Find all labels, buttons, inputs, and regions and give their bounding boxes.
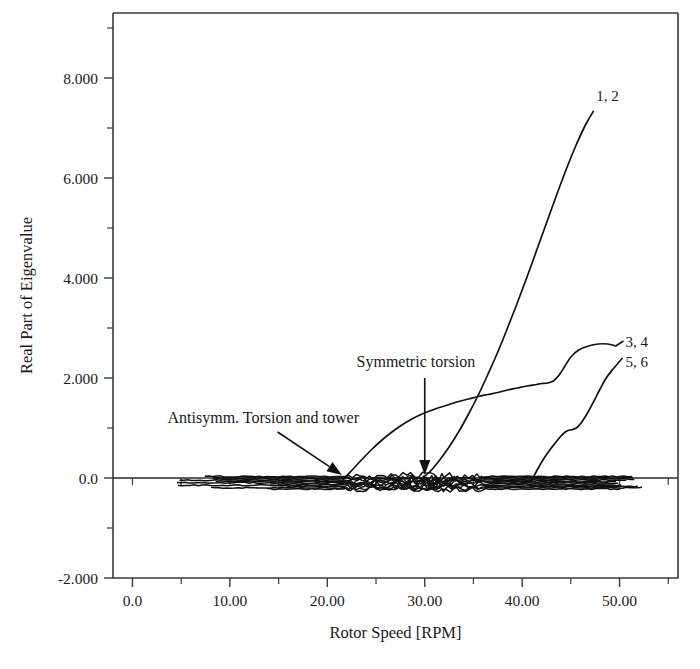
x-tick-label: 0.0	[123, 592, 143, 609]
y-tick-label: -2.000	[58, 570, 98, 587]
x-tick-label: 10.00	[212, 592, 247, 609]
eigenvalue-chart: -2.0000.02.0004.0006.0008.0000.010.0020.…	[0, 0, 700, 669]
x-tick-label: 40.00	[505, 592, 540, 609]
chart-background	[0, 0, 700, 669]
y-tick-label: 6.000	[63, 170, 98, 187]
y-tick-label: 2.000	[63, 370, 98, 387]
y-tick-label: 0.0	[79, 470, 99, 487]
annotation-label-1: Symmetric torsion	[357, 353, 476, 371]
curve-label-5-6: 5, 6	[625, 354, 648, 370]
figure-container: -2.0000.02.0004.0006.0008.0000.010.0020.…	[0, 0, 700, 669]
y-tick-label: 8.000	[63, 70, 98, 87]
x-tick-label: 30.00	[407, 592, 442, 609]
y-axis-title: Real Part of Eigenvalue	[17, 217, 36, 374]
curve-label-1-2: 1, 2	[596, 88, 619, 104]
x-axis-title: Rotor Speed [RPM]	[330, 623, 462, 642]
curve-label-3-4: 3, 4	[625, 334, 648, 350]
x-tick-label: 50.00	[602, 592, 637, 609]
y-tick-label: 4.000	[63, 270, 98, 287]
annotation-label-0: Antisymm. Torsion and tower	[168, 409, 360, 427]
x-tick-label: 20.00	[310, 592, 345, 609]
